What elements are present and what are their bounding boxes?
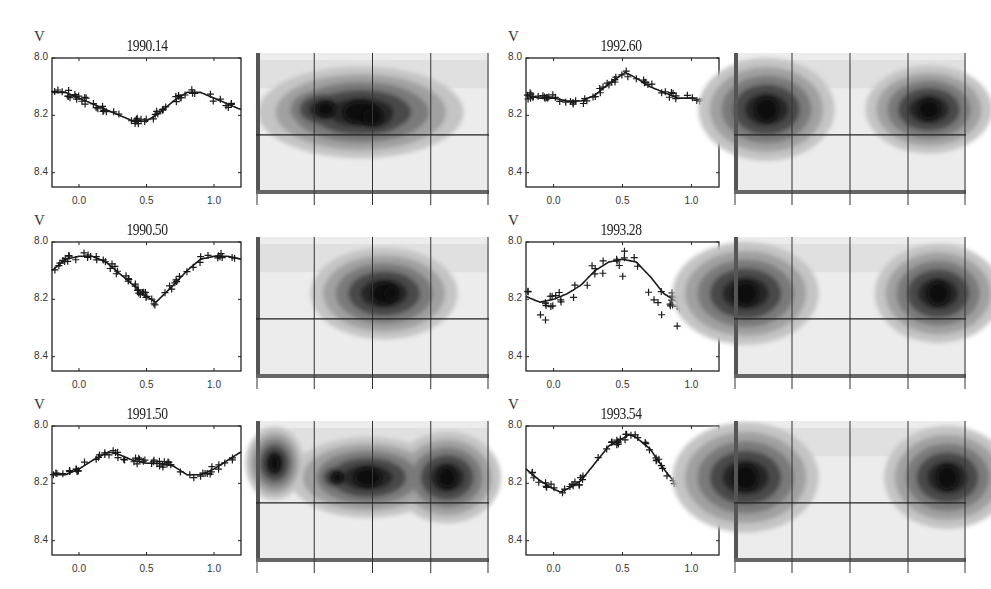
panel-title: 1993.28 xyxy=(574,221,668,239)
spot-map xyxy=(734,421,966,572)
x-tick-label: 0.0 xyxy=(64,195,94,206)
light-curve-plot xyxy=(52,58,241,187)
y-axis-label: V xyxy=(508,28,519,45)
y-tick-label: 8.2 xyxy=(498,476,522,487)
spot-map xyxy=(256,237,489,388)
panel-title: 1990.14 xyxy=(100,37,194,55)
y-axis-label: V xyxy=(34,212,45,229)
panel-title: 1992.60 xyxy=(574,37,668,55)
panel-title: 1993.54 xyxy=(574,405,668,423)
y-axis-label: V xyxy=(34,28,45,45)
y-tick-label: 8.2 xyxy=(498,292,522,303)
spot-map xyxy=(256,53,489,204)
light-curve-plot xyxy=(52,242,241,371)
x-tick-label: 1.0 xyxy=(199,379,229,390)
y-tick-label: 8.2 xyxy=(24,108,48,119)
spot-map xyxy=(256,421,489,572)
x-tick-label: 0.0 xyxy=(539,195,569,206)
x-tick-label: 0.0 xyxy=(539,379,569,390)
y-tick-label: 8.0 xyxy=(498,419,522,430)
x-tick-label: 0.0 xyxy=(64,563,94,574)
x-tick-label: 0.5 xyxy=(608,195,638,206)
spot-map xyxy=(734,237,966,388)
panel-title: 1990.50 xyxy=(100,221,194,239)
y-axis-label: V xyxy=(508,212,519,229)
x-tick-label: 1.0 xyxy=(676,379,706,390)
x-tick-label: 0.5 xyxy=(132,195,162,206)
panel-title: 1991.50 xyxy=(100,405,194,423)
y-tick-label: 8.0 xyxy=(24,419,48,430)
x-tick-label: 1.0 xyxy=(199,195,229,206)
y-tick-label: 8.2 xyxy=(24,292,48,303)
y-tick-label: 8.0 xyxy=(498,235,522,246)
x-tick-label: 1.0 xyxy=(676,195,706,206)
x-tick-label: 1.0 xyxy=(199,563,229,574)
y-tick-label: 8.4 xyxy=(24,534,48,545)
x-tick-label: 0.5 xyxy=(132,563,162,574)
y-tick-label: 8.4 xyxy=(24,166,48,177)
y-tick-label: 8.2 xyxy=(498,108,522,119)
y-axis-label: V xyxy=(508,396,519,413)
y-tick-label: 8.0 xyxy=(24,51,48,62)
y-tick-label: 8.4 xyxy=(498,350,522,361)
spot-map xyxy=(734,53,966,204)
y-axis-label: V xyxy=(34,396,45,413)
y-tick-label: 8.4 xyxy=(498,534,522,545)
x-tick-label: 0.5 xyxy=(132,379,162,390)
y-tick-label: 8.4 xyxy=(498,166,522,177)
x-tick-label: 0.0 xyxy=(64,379,94,390)
x-tick-label: 0.5 xyxy=(608,563,638,574)
x-tick-label: 1.0 xyxy=(676,563,706,574)
y-tick-label: 8.0 xyxy=(498,51,522,62)
y-tick-label: 8.0 xyxy=(24,235,48,246)
x-tick-label: 0.5 xyxy=(608,379,638,390)
x-tick-label: 0.0 xyxy=(539,563,569,574)
light-curve-plot xyxy=(52,426,241,555)
light-curve-plot xyxy=(526,58,719,187)
y-tick-label: 8.2 xyxy=(24,476,48,487)
y-tick-label: 8.4 xyxy=(24,350,48,361)
